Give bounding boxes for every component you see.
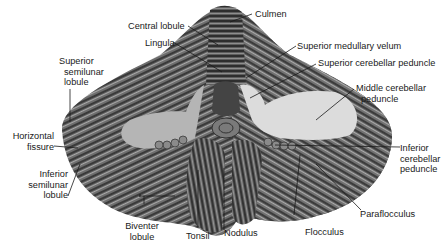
label-culmen: Culmen (255, 9, 287, 20)
label-middle-cerebellar-peduncle: Middle cerebellar peduncle (356, 83, 426, 104)
label-lingula: Lingula (145, 38, 175, 49)
label-flocculus: Flocculus (305, 227, 344, 238)
label-horizontal-fissure: Horizontal fissure (10, 131, 54, 152)
label-superior-cerebellar-peduncle: Superior cerebellar peduncle (318, 58, 435, 69)
label-superior-semilunar-lobule: Superior semilunar lobule (59, 56, 104, 88)
label-biventer-lobule: Biventer lobule (122, 221, 162, 242)
label-tonsil: Tonsil (186, 231, 210, 242)
label-nodulus: Nodulus (224, 228, 258, 239)
label-central-lobule: Central lobule (128, 21, 185, 32)
label-inferior-cerebellar-peduncle: Inferior cerebellar peduncle (400, 143, 440, 175)
label-paraflocculus: Paraflocculus (360, 209, 415, 220)
cerebellum-diagram: Culmen Central lobule Lingula Superior m… (0, 0, 447, 247)
label-inferior-semilunar-lobule: Inferior semilunar lobule (18, 169, 68, 201)
label-superior-medullary-velum: Superior medullary velum (297, 41, 401, 52)
nodulus-shape (212, 118, 240, 138)
tonsil-shape (187, 138, 225, 232)
vermis (206, 6, 246, 85)
